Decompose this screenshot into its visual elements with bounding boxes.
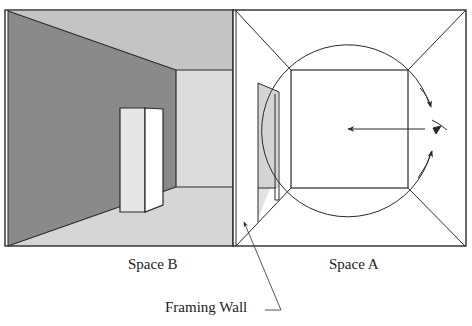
space-b-label: Space B	[128, 256, 178, 273]
pillar-front-face	[120, 108, 145, 212]
space-a-label: Space A	[329, 256, 379, 273]
perspective-diagram: Space B Space A Framing Wall	[0, 0, 472, 326]
back-wall	[176, 70, 232, 187]
diagram-canvas	[0, 0, 472, 326]
pillar	[120, 108, 163, 212]
space-b-panel	[5, 10, 233, 246]
framing-wall-label: Framing Wall	[165, 299, 247, 316]
pillar-side-face	[145, 108, 163, 212]
